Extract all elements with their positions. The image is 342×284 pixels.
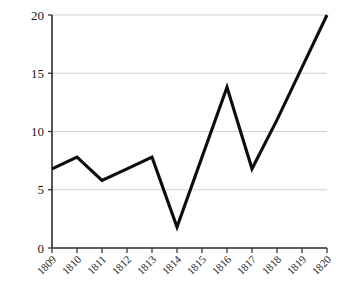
line-chart: 05101520 1809181018111812181318141815181… bbox=[0, 0, 342, 284]
chart-canvas: 05101520 1809181018111812181318141815181… bbox=[0, 0, 342, 284]
y-tick-label: 5 bbox=[38, 182, 45, 197]
y-tick-label: 15 bbox=[31, 66, 44, 81]
y-tick-label: 0 bbox=[38, 241, 45, 256]
y-tick-label: 20 bbox=[31, 8, 44, 23]
y-tick-label: 10 bbox=[31, 124, 44, 139]
